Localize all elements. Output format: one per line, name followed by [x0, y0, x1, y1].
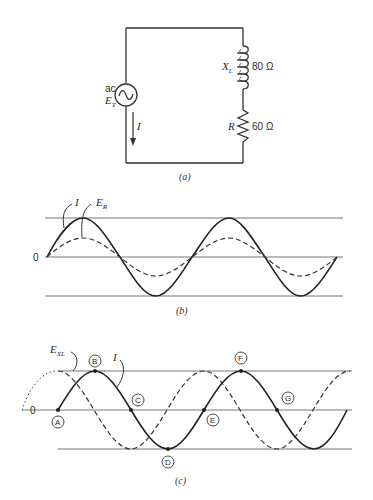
zero-label-b: 0 — [33, 252, 39, 263]
voltage-label-b: ER — [95, 196, 108, 211]
resistor-value: 60 Ω — [252, 121, 274, 132]
figure-canvas: ac ET I XL 80 Ω R 60 Ω (a) 0 I ER (b) — [0, 0, 373, 500]
point-d-label: D — [165, 458, 171, 467]
caption-b: (b) — [176, 305, 188, 317]
point-b-label: B — [92, 357, 97, 366]
panel-b-gridlines — [45, 218, 343, 296]
current-label-c: I — [112, 351, 118, 363]
current-label-b: I — [74, 196, 80, 208]
point-a-label: A — [55, 418, 61, 427]
inductor-icon — [238, 46, 249, 89]
point-e-label: E — [210, 416, 215, 425]
current-label: I — [136, 120, 142, 132]
inductor-label: XL — [221, 60, 233, 75]
ac-source-icon — [115, 84, 137, 106]
source-type-label: ac — [105, 83, 116, 94]
resistor-icon — [238, 110, 248, 142]
point-f-label: F — [238, 354, 243, 363]
circuit-diagram — [126, 28, 243, 163]
inductor-value: 80 Ω — [252, 61, 274, 72]
label-arrows-b — [63, 204, 91, 237]
point-g-label: G — [285, 394, 291, 403]
voltage-label-c: EXL — [49, 343, 65, 358]
zero-label-c: 0 — [30, 405, 36, 416]
point-c-label: C — [135, 396, 141, 405]
resistor-label: R — [227, 120, 235, 132]
current-arrow-icon — [130, 112, 136, 146]
caption-a: (a) — [179, 171, 191, 183]
caption-c: (c) — [175, 475, 187, 487]
waveform-voltage-xl-extension — [22, 371, 57, 410]
panel-c-gridlines — [22, 371, 352, 449]
